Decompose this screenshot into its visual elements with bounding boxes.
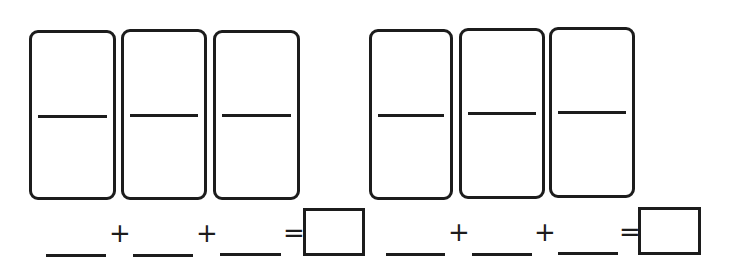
domino-divider	[38, 115, 107, 118]
domino-6	[549, 27, 635, 198]
sum-answer-box-1[interactable]	[303, 208, 365, 256]
plus-sign: +	[448, 219, 470, 245]
answer-blank-5[interactable]	[472, 253, 532, 256]
sum-answer-box-2[interactable]	[638, 207, 701, 255]
answer-blank-3[interactable]	[220, 253, 281, 256]
domino-5	[459, 28, 545, 199]
equals-sign: =	[283, 220, 305, 246]
domino-2	[121, 29, 207, 200]
answer-blank-2[interactable]	[133, 254, 193, 257]
answer-blank-6[interactable]	[558, 252, 618, 255]
domino-1	[29, 30, 116, 200]
domino-4	[369, 29, 453, 200]
plus-sign: +	[109, 220, 131, 246]
domino-divider	[378, 114, 444, 117]
plus-sign: +	[196, 220, 218, 246]
domino-divider	[130, 114, 198, 117]
domino-3	[213, 30, 300, 200]
answer-blank-4[interactable]	[386, 253, 445, 256]
answer-blank-1[interactable]	[46, 254, 106, 257]
plus-sign: +	[534, 219, 556, 245]
domino-divider	[222, 114, 291, 117]
domino-divider	[558, 111, 626, 114]
domino-divider	[468, 112, 536, 115]
